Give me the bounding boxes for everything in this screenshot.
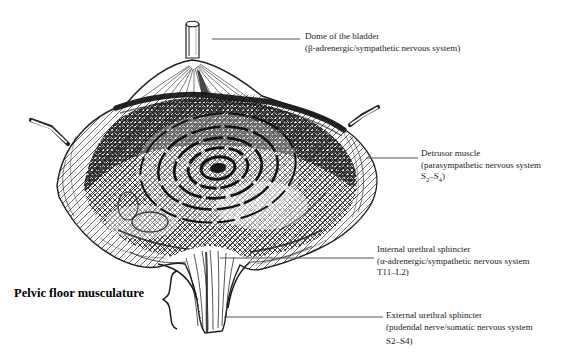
label-internal-line2: (α-adrenergic/sympathetic nervous system [377, 256, 530, 268]
label-external-line3: S2–S4) [386, 336, 533, 348]
pelvic-floor-brace [163, 271, 177, 329]
label-detrusor: Detrusor muscle (parasympathetic nervous… [421, 148, 541, 183]
label-detrusor-segments: S2–S4) [421, 171, 541, 183]
label-detrusor-line1: Detrusor muscle [421, 148, 541, 160]
left-ureter [31, 120, 68, 144]
label-detrusor-line2: (parasympathetic nervous system [421, 160, 541, 172]
right-ureter [350, 107, 378, 125]
label-external-sphincter: External urethral sphincter (pudendal ne… [386, 310, 533, 348]
label-external-line2: (pudendal nerve/somatic nervous system [386, 322, 533, 334]
bladder-figure: Dome of the bladder (β-adrenergic/sympat… [0, 0, 570, 358]
label-external-line1: External urethral sphincter [386, 310, 533, 322]
urachus-tube [186, 21, 199, 58]
label-internal-line3: T11–L2) [377, 267, 530, 279]
label-dome-line1: Dome of the bladder [305, 31, 460, 43]
label-internal-line1: Internal urethral sphincter [377, 244, 530, 256]
label-pelvic-floor: Pelvic floor musculature [14, 286, 144, 301]
label-internal-sphincter: Internal urethral sphincter (α-adrenergi… [377, 244, 530, 279]
label-dome: Dome of the bladder (β-adrenergic/sympat… [305, 31, 460, 54]
label-dome-line2: (β-adrenergic/sympathetic nervous system… [305, 43, 460, 55]
